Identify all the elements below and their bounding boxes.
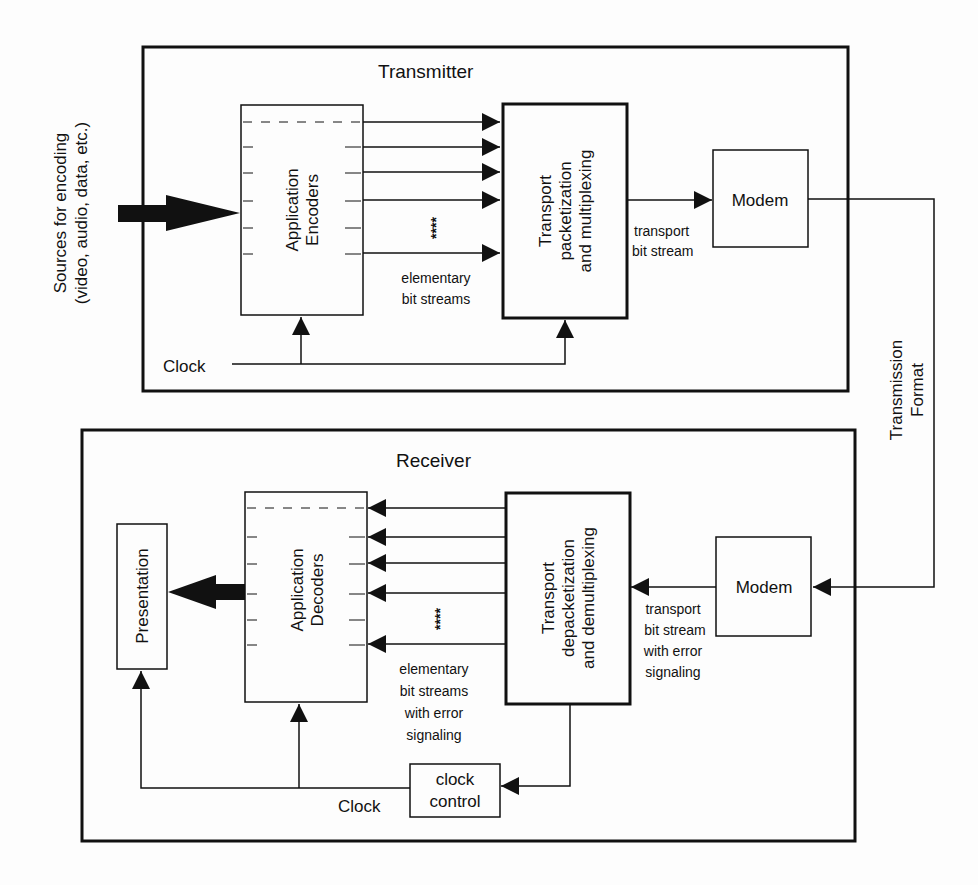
svg-text:Sources for encoding: Sources for encoding bbox=[51, 133, 70, 294]
svg-text:Application: Application bbox=[283, 168, 302, 251]
clock-recovery-arrow-icon bbox=[501, 704, 570, 786]
receiver-elementary-streams-label: elementary bbox=[399, 661, 468, 677]
svg-text:and demultiplexing: and demultiplexing bbox=[579, 527, 598, 669]
sources-input-arrow-icon bbox=[118, 195, 240, 231]
svg-text:and multiplexing: and multiplexing bbox=[576, 150, 595, 273]
presentation-output-arrow-icon bbox=[168, 575, 245, 609]
transmitter-clock-label: Clock bbox=[163, 357, 206, 376]
svg-text:bit stream: bit stream bbox=[632, 243, 693, 259]
svg-text:bit streams: bit streams bbox=[400, 683, 468, 699]
svg-text:Format: Format bbox=[908, 363, 927, 417]
transmitter-modem-block: Modem bbox=[713, 150, 808, 247]
receiver-clock-label: Clock bbox=[338, 797, 381, 816]
transport-packetization-block: Transport packetization and multiplexing bbox=[503, 104, 627, 318]
svg-text:control: control bbox=[429, 792, 480, 811]
receiver-transport-bit-stream-label: transport bbox=[645, 601, 700, 617]
svg-text:with error: with error bbox=[643, 643, 703, 659]
application-encoders-block: Application Encoders bbox=[241, 105, 363, 315]
receiver-modem-block: Modem bbox=[716, 537, 811, 636]
svg-text:depacketization: depacketization bbox=[559, 539, 578, 657]
svg-text:(video, audio, data, etc.): (video, audio, data, etc.) bbox=[72, 122, 91, 304]
transport-depacketization-block: Transport depacketization and demultiple… bbox=[506, 493, 630, 704]
system-diagram: Transmitter Sources for encoding (video,… bbox=[0, 0, 978, 885]
svg-text:Modem: Modem bbox=[736, 578, 793, 597]
svg-text:signaling: signaling bbox=[406, 727, 461, 743]
streams-ellipsis: **** bbox=[428, 217, 444, 239]
svg-text:Transport: Transport bbox=[536, 175, 555, 247]
transmission-format-label: Transmission bbox=[887, 340, 906, 440]
transmitter-frame bbox=[143, 47, 848, 391]
transmitter-title: Transmitter bbox=[378, 61, 474, 82]
transmitter-clock-lines bbox=[232, 317, 565, 364]
transmitter-section: Transmitter Sources for encoding (video,… bbox=[51, 47, 848, 391]
sources-label: Sources for encoding (video, audio, data… bbox=[51, 122, 91, 304]
svg-text:clock: clock bbox=[436, 770, 475, 789]
svg-text:packetization: packetization bbox=[556, 161, 575, 260]
receiver-title: Receiver bbox=[396, 450, 472, 471]
elementary-streams-label: elementary bbox=[401, 270, 470, 286]
receiver-streams-ellipsis: **** bbox=[432, 608, 448, 630]
transport-bit-stream-label: transport bbox=[634, 223, 689, 239]
receiver-clock-lines bbox=[141, 671, 410, 788]
clock-control-block: clock control bbox=[410, 764, 500, 817]
svg-text:bit streams: bit streams bbox=[402, 291, 470, 307]
svg-text:bit stream: bit stream bbox=[644, 622, 705, 638]
svg-text:Presentation: Presentation bbox=[133, 548, 152, 643]
svg-text:with error: with error bbox=[404, 705, 464, 721]
svg-text:Application: Application bbox=[288, 548, 307, 631]
presentation-block: Presentation bbox=[117, 524, 167, 669]
transmission-link: Transmission Format bbox=[808, 199, 934, 587]
application-decoders-block: Application Decoders bbox=[245, 492, 367, 702]
receiver-section: Receiver Presentation bbox=[82, 430, 855, 841]
svg-text:signaling: signaling bbox=[645, 664, 700, 680]
svg-text:Transport: Transport bbox=[539, 562, 558, 634]
svg-text:Decoders: Decoders bbox=[308, 554, 327, 627]
svg-text:Encoders: Encoders bbox=[303, 174, 322, 246]
svg-text:Modem: Modem bbox=[732, 191, 789, 210]
